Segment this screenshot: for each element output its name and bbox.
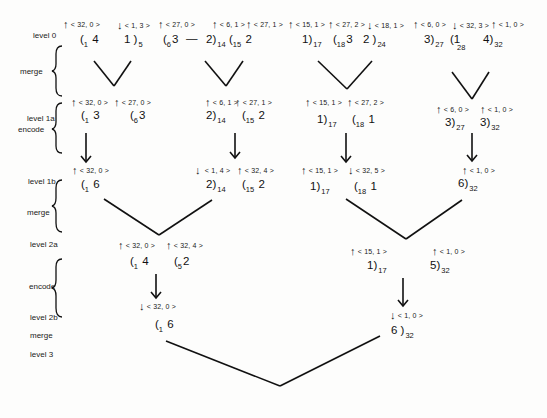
label-level2b: level 2b: [30, 313, 58, 322]
token-subscript: 28: [457, 43, 465, 52]
token: (1 6: [81, 178, 100, 194]
up-arrow-icon: ↑: [480, 103, 486, 115]
label-encode-1: encode: [18, 125, 44, 134]
token: 6 )32: [391, 324, 414, 340]
tag: ↓< 32, 0 >: [139, 300, 176, 312]
up-arrow-icon: ↑: [347, 96, 353, 108]
tag: ↑< 32, 4 >: [166, 239, 203, 251]
merge-line: [205, 61, 226, 86]
token: 4)32: [483, 33, 503, 49]
token: (15 2: [229, 33, 252, 49]
up-arrow-icon: ↑: [491, 18, 497, 30]
tag: ↑< 32, 0 >: [63, 18, 100, 30]
tag: ↑< 15, 1 >: [305, 96, 342, 108]
token: 1)17: [367, 259, 387, 275]
tag: ↑< 27, 2 >: [347, 96, 384, 108]
merge-line: [318, 61, 347, 89]
tag: ↑< 27, 0 >: [158, 18, 195, 30]
label-level3: level 3: [30, 350, 53, 359]
label-level0: level 0: [33, 31, 56, 40]
up-arrow-icon: ↑: [432, 245, 438, 257]
up-arrow-icon: ↑: [114, 96, 120, 108]
token: (183: [333, 33, 353, 49]
token: (1 4: [80, 33, 99, 49]
token: 2 )24: [363, 33, 386, 49]
token: (18 1: [352, 113, 375, 129]
tag: ↑< 32, 0 >: [71, 96, 108, 108]
tag: ↑< 1, 0 >: [480, 103, 513, 115]
up-arrow-icon: ↑: [350, 245, 356, 257]
up-arrow-icon: ↑: [212, 18, 218, 30]
token: (18 1: [354, 180, 377, 196]
up-arrow-icon: ↑: [63, 18, 69, 30]
tag: ↑< 32, 0 >: [72, 164, 109, 176]
tag: ↑< 1, 0 >: [462, 164, 495, 176]
token: 2)14: [206, 33, 226, 49]
tag: ↑< 15, 1 >: [301, 164, 338, 176]
token: (1 3: [81, 109, 100, 125]
tag: ↑< 6, 1 >: [212, 18, 245, 30]
token: (52: [174, 255, 189, 271]
tag: ↑< 15, 1 >: [288, 18, 325, 30]
tag: ↑< 27, 2 >: [328, 18, 365, 30]
token: (63: [130, 109, 145, 125]
tag: ↓< 1, 0 >: [390, 309, 423, 321]
tag: ↑< 27, 0 >: [114, 96, 151, 108]
brace-encode-1: [52, 103, 62, 153]
label-level2a: level 2a: [30, 240, 58, 249]
up-arrow-icon: ↑: [72, 164, 78, 176]
tag: ↓< 32, 5 >: [348, 164, 385, 176]
up-arrow-icon: ↑: [237, 164, 243, 176]
merge-line: [226, 61, 243, 86]
up-arrow-icon: ↑: [205, 96, 211, 108]
down-arrow-icon: ↓: [117, 19, 123, 31]
token: (15 2: [242, 178, 265, 194]
token: 2)14: [206, 178, 226, 194]
tag: ↑< 6, 0 >: [413, 18, 446, 30]
down-arrow-icon: ↓: [367, 19, 373, 31]
up-arrow-icon: ↑: [328, 18, 334, 30]
token-dash: —: [186, 32, 198, 44]
up-arrow-icon: ↑: [246, 18, 252, 30]
merge-line: [114, 61, 131, 86]
tag: ↓< 1, 3 >: [117, 19, 150, 31]
token: 2)14: [206, 109, 226, 125]
up-arrow-icon: ↑: [288, 18, 294, 30]
token: 1 )5: [124, 33, 143, 49]
tag: ↑< 1, 0 >: [491, 18, 524, 30]
tag: ↓ < 1, 4 >: [195, 164, 230, 176]
down-arrow-icon: ↓: [390, 309, 396, 321]
down-arrow-icon: ↓: [139, 300, 145, 312]
token: 6)32: [458, 177, 478, 193]
merge-line: [452, 72, 472, 99]
token: 3)27: [445, 116, 465, 132]
up-arrow-icon: ↑: [305, 96, 311, 108]
token: 3)27: [424, 33, 444, 49]
up-arrow-icon: ↑: [413, 18, 419, 30]
tag: ↑< 27, 1 >: [246, 18, 283, 30]
tag: ↓< 18, 1 >: [367, 19, 404, 31]
up-arrow-icon: ↑: [118, 239, 124, 251]
tag: ↑< 6, 1 >: [205, 96, 238, 108]
tag: ↑< 6, 0 >: [436, 103, 469, 115]
token: 5)32: [430, 259, 450, 275]
tag: ↑< 27, 1 >: [235, 96, 272, 108]
merge-line: [94, 61, 114, 86]
token: (1 4: [130, 255, 149, 271]
up-arrow-icon: ↑: [235, 96, 241, 108]
label-level1b: level 1b: [28, 177, 56, 186]
brace-merge-1: [52, 46, 62, 96]
up-arrow-icon: ↑: [71, 96, 77, 108]
down-arrow-icon: ↓: [195, 164, 201, 176]
label-merge-2: merge: [27, 208, 50, 217]
tag: ↓< 32, 3 >: [452, 19, 489, 31]
token: 1)17: [310, 180, 330, 196]
connector-lines: [0, 0, 547, 418]
down-arrow-icon: ↓: [452, 19, 458, 31]
label-merge-1: merge: [20, 67, 43, 76]
down-arrow-icon: ↓: [348, 164, 354, 176]
token: 1)17: [302, 33, 322, 49]
up-arrow-icon: ↑: [462, 164, 468, 176]
label-merge-3: merge: [30, 331, 53, 340]
merge-line: [347, 61, 372, 89]
